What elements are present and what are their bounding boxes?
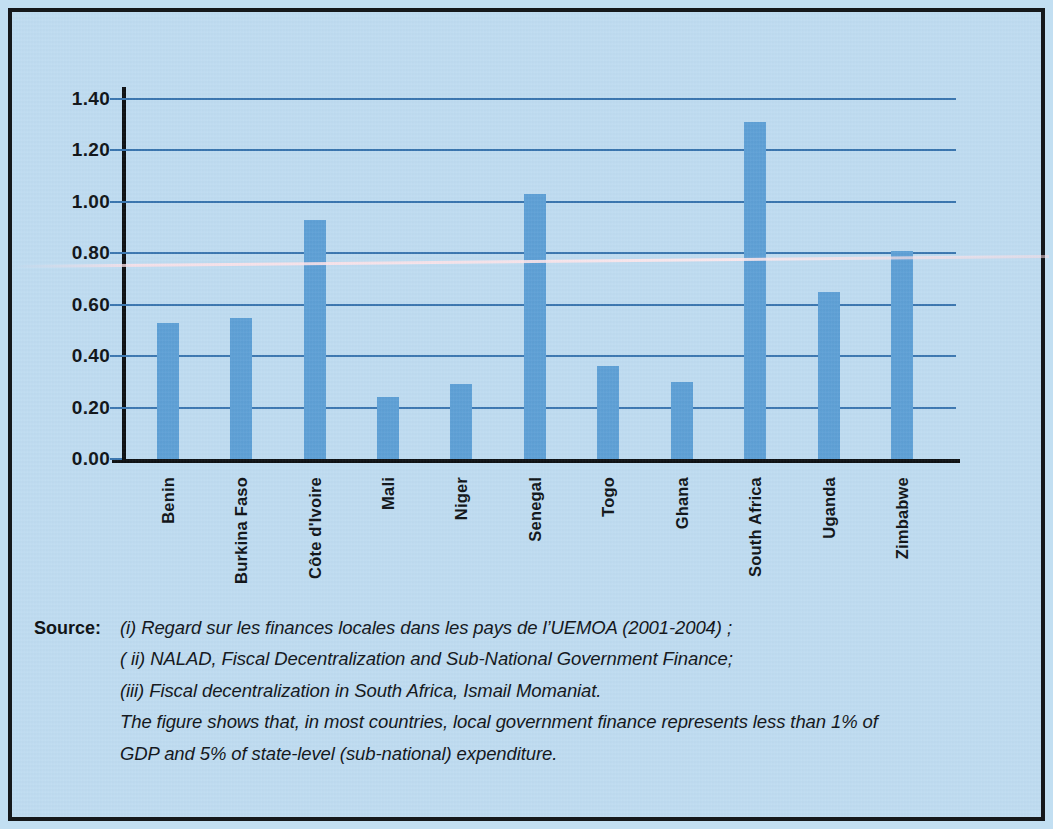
figure-page: 1.401.201.000.800.600.400.200.00 BeninBu… [0,0,1053,829]
bar-slot: Senegal [495,99,575,459]
bar-chart: 1.401.201.000.800.600.400.200.00 BeninBu… [12,12,1049,612]
bar[interactable] [671,382,693,459]
y-tick-label: 0.40 [72,345,110,367]
y-tick-label: 1.20 [72,139,110,161]
x-axis-label: Niger [453,477,470,520]
bar-slot: Burkina Faso [201,99,281,459]
x-axis-label: Ghana [674,477,691,529]
bar-column[interactable] [789,99,869,459]
bar[interactable] [304,220,326,459]
bar-column[interactable] [348,99,428,459]
x-axis-label: Senegal [527,477,544,542]
bar-column[interactable] [568,99,648,459]
bar[interactable] [377,397,399,459]
figure-note-line-2: GDP and 5% of state-level (sub-national)… [120,742,1029,766]
bar[interactable] [524,194,546,459]
bar[interactable] [230,318,252,459]
source-first-row: Source: (i) Regard sur les finances loca… [34,616,1029,640]
bar-series: BeninBurkina FasoCôte d'IvoireMaliNigerS… [122,99,956,459]
x-axis [112,459,960,463]
bar-slot: Niger [421,99,501,459]
x-axis-label: Mali [380,477,397,510]
source-block: Source: (i) Regard sur les finances loca… [34,616,1029,773]
bar-column[interactable] [642,99,722,459]
x-axis-label: Togo [600,477,617,517]
source-line-1: (i) Regard sur les finances locales dans… [120,616,732,640]
bar-slot: Benin [128,99,208,459]
bar-column[interactable] [201,99,281,459]
bar-column[interactable] [421,99,501,459]
source-line-3: (iii) Fiscal decentralization in South A… [120,679,1029,703]
x-axis-label: Uganda [821,477,838,539]
y-tick-mark [110,98,122,100]
bar-slot: Zimbabwe [862,99,942,459]
figure-note-line-1: The figure shows that, in most countries… [120,710,1029,734]
bar[interactable] [744,122,766,459]
y-tick-label: 0.60 [72,294,110,316]
bar-slot: Côte d'Ivoire [275,99,355,459]
bar[interactable] [450,384,472,459]
y-tick-mark [110,304,122,306]
bar-slot: Mali [348,99,428,459]
y-tick-label: 0.00 [72,448,110,470]
y-tick-label: 0.80 [72,242,110,264]
bar-column[interactable] [715,99,795,459]
source-line-2: ( ii) NALAD, Fiscal Decentralization and… [120,647,1029,671]
y-tick-label: 1.40 [72,88,110,110]
bar[interactable] [597,366,619,459]
bar-slot: Togo [568,99,648,459]
y-tick-mark [110,355,122,357]
y-tick-mark [110,458,122,460]
y-tick-mark [110,149,122,151]
bar-column[interactable] [495,99,575,459]
source-label: Source: [34,618,120,639]
x-axis-label: Zimbabwe [894,477,911,559]
x-axis-label: Côte d'Ivoire [306,477,323,579]
x-axis-label: Burkina Faso [233,477,250,584]
y-tick-label: 1.00 [72,191,110,213]
bar-slot: South Africa [715,99,795,459]
x-axis-label: South Africa [747,477,764,577]
bar-column[interactable] [275,99,355,459]
x-axis-label: Benin [159,477,176,524]
figure-frame: 1.401.201.000.800.600.400.200.00 BeninBu… [8,8,1045,821]
bar-slot: Ghana [642,99,722,459]
y-tick-mark [110,201,122,203]
bar[interactable] [891,251,913,459]
y-tick-mark [110,252,122,254]
bar-slot: Uganda [789,99,869,459]
bar[interactable] [818,292,840,459]
bar[interactable] [157,323,179,459]
y-tick-mark [110,407,122,409]
bar-column[interactable] [128,99,208,459]
bar-column[interactable] [862,99,942,459]
plot-area: 1.401.201.000.800.600.400.200.00 BeninBu… [122,99,956,459]
y-tick-label: 0.20 [72,397,110,419]
